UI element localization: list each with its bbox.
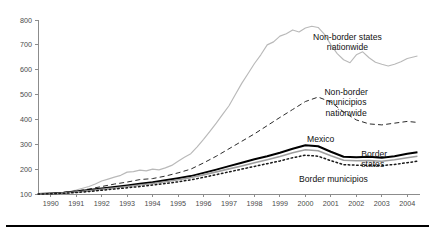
y-tick-label: 400 xyxy=(20,115,32,124)
x-axis: 1990199119921993199419951996199719981999… xyxy=(38,194,420,208)
x-tick-label: 2002 xyxy=(348,199,364,208)
x-tick-label: 1993 xyxy=(119,199,135,208)
x-tick-label: 1994 xyxy=(145,199,161,208)
x-tick-label: 2001 xyxy=(323,199,339,208)
x-tick-label: 1997 xyxy=(221,199,237,208)
x-tick-label: 2000 xyxy=(297,199,313,208)
x-tick-label: 1996 xyxy=(196,199,212,208)
annotation-non-border-states-nationwide: nationwide xyxy=(327,42,368,52)
y-tick-label: 700 xyxy=(20,40,32,49)
y-tick-label: 600 xyxy=(20,65,32,74)
annotation-non-border-municipios-nationwide: Non-border xyxy=(324,87,368,97)
bottom-divider xyxy=(6,225,429,227)
annotation-non-border-municipios-nationwide: nationwide xyxy=(326,108,367,118)
x-tick-label: 1992 xyxy=(94,199,110,208)
x-tick-label: 1998 xyxy=(246,199,262,208)
line-chart: 100200300400500600700800 199019911992199… xyxy=(0,0,435,232)
y-tick-label: 300 xyxy=(20,140,32,149)
x-tick-label: 1990 xyxy=(43,199,59,208)
x-tick-label: 2003 xyxy=(374,199,390,208)
y-tick-label: 100 xyxy=(20,190,32,199)
annotation-non-border-municipios-nationwide: municipios xyxy=(326,97,367,107)
annotation-border-states: Border xyxy=(361,149,387,159)
annotation-border-states: states xyxy=(361,159,384,169)
y-tick-label: 200 xyxy=(20,165,32,174)
y-tick-group: 100200300400500600700800 xyxy=(20,16,38,199)
x-tick-label: 1991 xyxy=(68,199,84,208)
y-tick-label: 800 xyxy=(20,16,32,25)
x-tick-group: 1990199119921993199419951996199719981999… xyxy=(43,194,416,208)
x-tick-label: 2004 xyxy=(399,199,415,208)
y-tick-label: 500 xyxy=(20,90,32,99)
x-tick-label: 1995 xyxy=(170,199,186,208)
chart-figure: 100200300400500600700800 199019911992199… xyxy=(0,0,435,232)
y-axis: 100200300400500600700800 xyxy=(20,16,38,199)
annotation-border-municipios: Border municipios xyxy=(299,174,368,184)
x-tick-label: 1999 xyxy=(272,199,288,208)
annotation-mexico: Mexico xyxy=(307,134,334,144)
annotation-non-border-states-nationwide: Non-border states xyxy=(313,32,382,42)
